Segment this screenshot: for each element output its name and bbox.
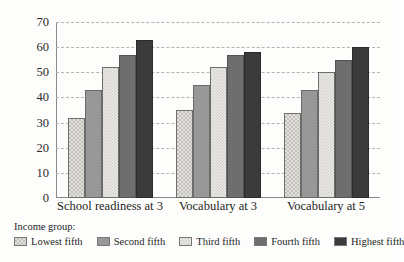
bar-group	[176, 22, 261, 198]
bar	[227, 55, 244, 198]
legend-item[interactable]: Highest fifth	[334, 237, 404, 248]
x-axis-category-label: Vocabulary at 3	[179, 200, 257, 214]
y-axis-tick-label: 0	[43, 192, 56, 205]
legend-item[interactable]: Second fifth	[97, 237, 166, 248]
bar	[210, 67, 227, 198]
legend-swatch-icon	[97, 237, 110, 246]
y-axis-tick-label: 70	[37, 16, 57, 29]
y-axis-tick-label: 50	[37, 66, 57, 79]
x-axis-category-label: Vocabulary at 5	[287, 200, 365, 214]
legend-items: Lowest fifthSecond fifthThird fifthFourt…	[14, 237, 386, 248]
y-axis-tick-label: 10	[37, 167, 57, 180]
x-axis-category-labels: School readiness at 3Vocabulary at 3Voca…	[56, 200, 380, 218]
bar	[102, 67, 119, 198]
legend-item[interactable]: Fourth fifth	[254, 237, 320, 248]
bar-group	[68, 22, 153, 198]
legend-item-label: Third fifth	[196, 237, 240, 248]
legend-item-label: Highest fifth	[351, 237, 404, 248]
x-axis-category-label: School readiness at 3	[57, 200, 163, 214]
bar	[335, 60, 352, 198]
bar-group	[284, 22, 369, 198]
legend-swatch-icon	[334, 237, 347, 246]
legend-swatch-icon	[254, 237, 267, 246]
legend-item[interactable]: Lowest fifth	[14, 237, 83, 248]
bar	[176, 110, 193, 198]
bar	[352, 47, 369, 198]
legend-swatch-icon	[14, 237, 27, 246]
bar	[119, 55, 136, 198]
legend-title: Income group:	[14, 221, 386, 233]
bar	[193, 85, 210, 198]
bar	[301, 90, 318, 198]
bar	[85, 90, 102, 198]
y-axis-tick-label: 60	[37, 41, 57, 54]
bar	[244, 52, 261, 198]
bar	[136, 40, 153, 198]
legend-item[interactable]: Third fifth	[179, 237, 240, 248]
legend: Income group: Lowest fifthSecond fifthTh…	[14, 221, 386, 247]
bar	[68, 118, 85, 198]
bar	[284, 113, 301, 198]
y-axis-tick-label: 20	[37, 141, 57, 154]
y-axis-tick-label: 30	[37, 116, 57, 129]
legend-item-label: Fourth fifth	[271, 237, 320, 248]
legend-swatch-icon	[179, 237, 192, 246]
legend-item-label: Second fifth	[114, 237, 166, 248]
bars-layer	[56, 22, 380, 198]
plot-area: 010203040506070	[56, 22, 380, 198]
bar	[318, 72, 335, 198]
legend-item-label: Lowest fifth	[31, 237, 83, 248]
y-axis-tick-label: 40	[37, 91, 57, 104]
